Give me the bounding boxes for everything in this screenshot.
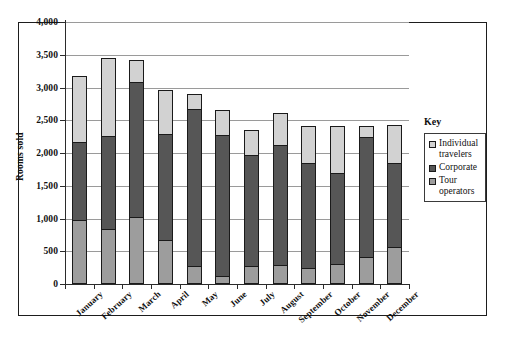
x-tick-mark	[65, 284, 66, 289]
y-tick-label: 0	[53, 279, 58, 289]
y-tick-label: 2,000	[36, 148, 58, 158]
legend-box: Individual travelersCorporateTour operat…	[424, 133, 486, 202]
y-tick-label: 3,000	[36, 83, 58, 93]
bar-group[interactable]	[158, 90, 173, 284]
x-tick-mark	[409, 284, 410, 289]
chart-page: 05001,0001,5002,0002,5003,0003,5004,000 …	[0, 0, 505, 341]
gridline	[65, 22, 409, 23]
y-tick-label: 500	[43, 246, 58, 256]
y-axis-tick-labels: 05001,0001,5002,0002,5003,0003,5004,000	[22, 0, 58, 341]
y-tick-mark	[60, 88, 66, 89]
bar-segment[interactable]	[244, 266, 259, 284]
bar-group[interactable]	[387, 125, 402, 284]
gridline	[65, 219, 409, 220]
bar-group[interactable]	[301, 126, 316, 284]
bar-segment[interactable]	[158, 134, 173, 240]
bar-group[interactable]	[215, 110, 230, 284]
bar-segment[interactable]	[330, 173, 345, 264]
gridline	[65, 88, 409, 89]
bar-segment[interactable]	[301, 126, 316, 164]
gridline	[65, 186, 409, 187]
bar-group[interactable]	[273, 113, 288, 284]
x-tick-mark	[208, 284, 209, 289]
legend-swatch-icon	[429, 141, 436, 148]
bar-segment[interactable]	[359, 126, 374, 137]
y-axis-title: Rooms sold	[13, 109, 27, 205]
legend-item[interactable]: Individual travelers	[429, 138, 482, 160]
y-tick-mark	[60, 219, 66, 220]
bar-segment[interactable]	[301, 163, 316, 267]
bar-segment[interactable]	[273, 145, 288, 265]
bar-segment[interactable]	[330, 264, 345, 284]
y-tick-label: 1,500	[36, 181, 58, 191]
plot-area	[65, 22, 409, 284]
gridline	[65, 153, 409, 154]
bar-segment[interactable]	[158, 240, 173, 284]
bar-segment[interactable]	[273, 265, 288, 284]
gridline	[65, 120, 409, 121]
bar-group[interactable]	[129, 60, 144, 284]
bar-segment[interactable]	[387, 125, 402, 163]
bar-segment[interactable]	[187, 94, 202, 110]
bar-segment[interactable]	[215, 276, 230, 285]
x-tick-mark	[94, 284, 95, 289]
bar-segment[interactable]	[273, 113, 288, 145]
legend-swatch-icon	[429, 165, 436, 172]
bar-segment[interactable]	[72, 142, 87, 220]
bar-segment[interactable]	[244, 155, 259, 266]
bar-segment[interactable]	[387, 247, 402, 284]
bar-segment[interactable]	[244, 130, 259, 154]
bar-group[interactable]	[187, 94, 202, 284]
bar-group[interactable]	[244, 130, 259, 284]
legend-item[interactable]: Corporate	[429, 162, 482, 173]
x-tick-mark	[294, 284, 295, 289]
y-tick-mark	[60, 251, 66, 252]
y-tick-mark	[60, 120, 66, 121]
bar-segment[interactable]	[129, 60, 144, 83]
y-tick-label: 4,000	[36, 17, 58, 27]
y-tick-label: 2,500	[36, 115, 58, 125]
bar-segment[interactable]	[301, 268, 316, 284]
bar-group[interactable]	[359, 126, 374, 284]
y-tick-mark	[60, 22, 66, 23]
gridline	[65, 251, 409, 252]
bar-segment[interactable]	[215, 110, 230, 135]
y-tick-mark	[60, 153, 66, 154]
y-tick-label: 1,000	[36, 214, 58, 224]
x-tick-mark	[122, 284, 123, 289]
bar-segment[interactable]	[72, 76, 87, 142]
legend-title: Key	[424, 116, 441, 127]
legend-item-label: Tour operators	[439, 175, 482, 197]
bar-segment[interactable]	[359, 137, 374, 257]
legend-swatch-icon	[429, 178, 436, 185]
bar-group[interactable]	[330, 126, 345, 284]
legend-item-label: Individual travelers	[439, 138, 482, 160]
bar-group[interactable]	[101, 58, 116, 284]
bar-segment[interactable]	[359, 257, 374, 284]
x-tick-mark	[266, 284, 267, 289]
legend-item-label: Corporate	[439, 162, 477, 173]
bar-segment[interactable]	[101, 136, 116, 230]
y-tick-mark	[60, 55, 66, 56]
y-tick-mark	[60, 186, 66, 187]
bar-segment[interactable]	[129, 82, 144, 216]
x-tick-mark	[380, 284, 381, 289]
bar-segment[interactable]	[101, 229, 116, 284]
bar-segment[interactable]	[215, 135, 230, 276]
x-tick-mark	[180, 284, 181, 289]
gridline	[65, 55, 409, 56]
bar-group[interactable]	[72, 76, 87, 284]
x-tick-mark	[323, 284, 324, 289]
bar-segment[interactable]	[72, 220, 87, 284]
bar-segment[interactable]	[129, 217, 144, 284]
bar-segment[interactable]	[387, 163, 402, 247]
bar-segment[interactable]	[101, 58, 116, 136]
x-tick-mark	[352, 284, 353, 289]
bar-segment[interactable]	[330, 126, 345, 173]
bar-segment[interactable]	[187, 109, 202, 266]
x-tick-mark	[151, 284, 152, 289]
legend-item[interactable]: Tour operators	[429, 175, 482, 197]
bar-segment[interactable]	[187, 266, 202, 284]
y-tick-label: 3,500	[36, 50, 58, 60]
bar-segment[interactable]	[158, 90, 173, 134]
